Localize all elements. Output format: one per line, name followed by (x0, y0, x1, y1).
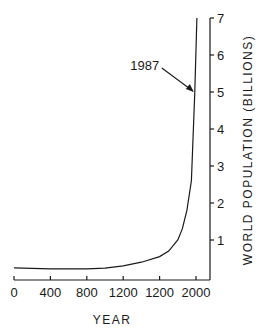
x-tick-label: 1200 (145, 285, 174, 300)
annotation-1987: 1987 (130, 58, 193, 92)
x-tick-label: 800 (76, 285, 98, 300)
axes (14, 18, 214, 280)
y-tick-label: 3 (217, 159, 224, 174)
y-tick-label: 2 (217, 196, 224, 211)
y-axis-title: WORLD POPULATION (BILLIONS) (241, 35, 255, 265)
y-tick-labels: 1234567 (217, 11, 224, 248)
y-tick-label: 6 (217, 48, 224, 63)
x-axis-title: YEAR (93, 313, 132, 327)
x-tick-label: 2000 (182, 285, 211, 300)
population-curve (14, 18, 197, 269)
annotation-label: 1987 (130, 58, 159, 73)
population-chart: 0400800120012002000 1234567 1987 YEAR WO… (0, 0, 262, 335)
y-tick-label: 4 (217, 122, 224, 137)
x-tick-labels: 0400800120012002000 (10, 285, 210, 300)
x-tick-label: 0 (10, 285, 17, 300)
x-tick-label: 1200 (109, 285, 138, 300)
y-tick-label: 1 (217, 233, 224, 248)
y-tick-label: 5 (217, 85, 224, 100)
y-tick-label: 7 (217, 11, 224, 26)
arrow-head-icon (186, 84, 194, 92)
x-tick-label: 400 (40, 285, 62, 300)
